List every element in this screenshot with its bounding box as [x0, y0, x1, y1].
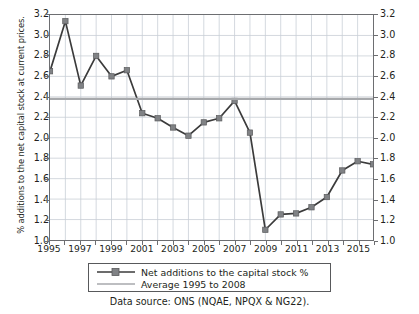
x-tick-mark	[297, 241, 298, 245]
y-tick-label-right: 2.2	[380, 112, 395, 122]
x-tick-mark	[157, 241, 158, 245]
x-tick-mark	[343, 241, 344, 245]
x-tick-mark	[111, 241, 112, 245]
x-tick-mark	[266, 241, 267, 245]
y-tick-label-right: 3.2	[380, 9, 395, 19]
x-tick-mark	[64, 241, 65, 245]
y-tick-mark	[45, 179, 49, 180]
y-tick-mark	[374, 179, 378, 180]
legend-item-average: Average 1995 to 2008	[95, 278, 330, 290]
y-tick-mark	[45, 97, 49, 98]
y-tick-label-right: 1.4	[380, 195, 395, 205]
y-tick-mark	[374, 220, 378, 221]
y-tick-mark	[45, 55, 49, 56]
y-tick-mark	[374, 55, 378, 56]
y-tick-label-right: 1.2	[380, 215, 395, 225]
x-tick-mark	[250, 241, 251, 245]
y-tick-label-right: 2.6	[380, 71, 395, 81]
plot-canvas	[50, 15, 373, 240]
y-tick-label-right: 2.0	[380, 133, 395, 143]
y-tick-mark	[374, 14, 378, 15]
chart-figure: % additions to the net capital stock at …	[0, 0, 419, 314]
line-key-icon	[95, 278, 137, 290]
y-tick-mark	[45, 220, 49, 221]
x-tick-mark	[173, 241, 174, 245]
y-tick-mark	[374, 35, 378, 36]
y-axis-ticks-right: 1.01.21.41.61.82.02.22.42.62.83.03.2	[380, 0, 406, 314]
y-tick-mark	[45, 200, 49, 201]
x-tick-mark	[49, 241, 50, 245]
y-tick-mark	[374, 200, 378, 201]
legend-item-series: Net additions to the capital stock %	[95, 266, 330, 278]
x-axis-ticks: 1995199719992001200320052007200920112013…	[0, 243, 419, 257]
x-tick-mark	[281, 241, 282, 245]
y-tick-mark	[45, 76, 49, 77]
y-tick-mark	[45, 117, 49, 118]
y-tick-label-right: 3.0	[380, 30, 395, 40]
x-tick-mark	[142, 241, 143, 245]
legend-label-average: Average 1995 to 2008	[141, 279, 246, 290]
y-tick-mark	[374, 117, 378, 118]
x-tick-mark	[312, 241, 313, 245]
legend-label-series: Net additions to the capital stock %	[141, 267, 309, 278]
x-tick-mark	[374, 241, 375, 245]
x-tick-mark	[204, 241, 205, 245]
chart-legend: Net additions to the capital stock % Ave…	[88, 263, 331, 292]
y-tick-mark	[374, 138, 378, 139]
x-tick-mark	[126, 241, 127, 245]
plot-area	[49, 14, 374, 241]
line-marker-key-icon	[95, 266, 137, 278]
y-tick-label-right: 2.4	[380, 92, 395, 102]
y-tick-mark	[45, 138, 49, 139]
x-tick-mark	[219, 241, 220, 245]
source-note: Data source: ONS (NQAE, NPQX & NG22).	[0, 296, 419, 307]
y-tick-mark	[45, 14, 49, 15]
x-tick-mark	[95, 241, 96, 245]
y-axis-ticks-left: 1.01.21.41.61.82.02.22.42.62.83.03.2	[23, 0, 49, 314]
x-tick-mark	[359, 241, 360, 245]
x-tick-mark	[188, 241, 189, 245]
y-tick-mark	[374, 97, 378, 98]
y-tick-mark	[45, 158, 49, 159]
y-tick-mark	[45, 35, 49, 36]
y-tick-mark	[374, 76, 378, 77]
y-tick-label-right: 1.8	[380, 153, 395, 163]
x-tick-mark	[235, 241, 236, 245]
x-tick-mark	[328, 241, 329, 245]
x-tick-mark	[80, 241, 81, 245]
y-tick-label-right: 1.6	[380, 174, 395, 184]
y-tick-mark	[374, 158, 378, 159]
y-tick-label-right: 2.8	[380, 50, 395, 60]
